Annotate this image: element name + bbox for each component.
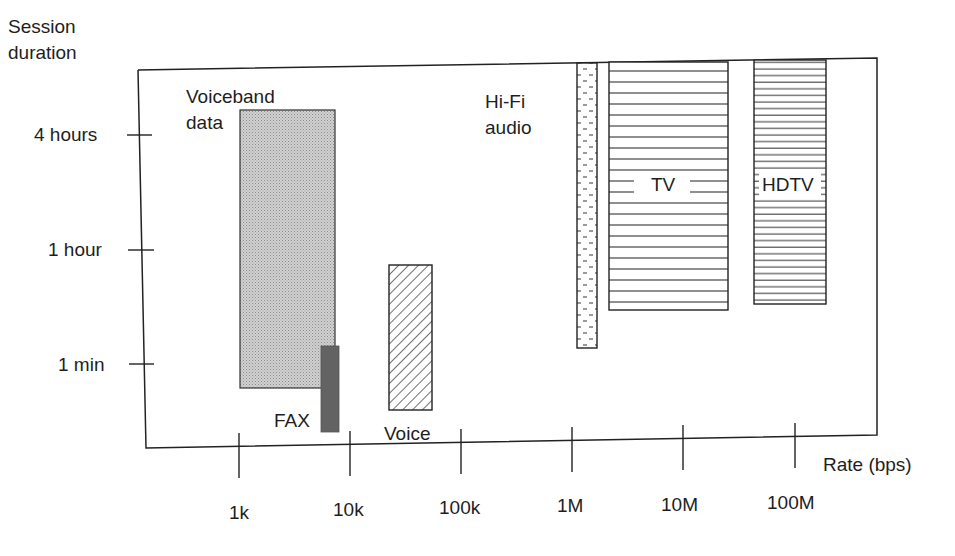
x-tick-label-100k: 100k: [439, 497, 480, 519]
region-fax: [321, 346, 339, 432]
chart-canvas: [0, 0, 955, 556]
y-tick-label-1min: 1 min: [58, 354, 104, 376]
x-tick-label-10M: 10M: [661, 494, 698, 516]
y-tick-label-4hours: 4 hours: [34, 124, 97, 146]
y-axis-title-line2: duration: [8, 42, 77, 64]
y-axis-title-line1: Session: [8, 16, 76, 38]
x-axis-title: Rate (bps): [823, 454, 912, 476]
label-voiceband-line2: data: [186, 112, 223, 134]
label-voiceband-line1: Voiceband: [186, 86, 275, 108]
region-voice: [389, 265, 432, 410]
label-fax: FAX: [274, 410, 310, 432]
label-voice: Voice: [384, 423, 430, 445]
label-hifi-line2: audio: [485, 117, 532, 139]
x-tick-label-1k: 1k: [229, 502, 249, 524]
label-hdtv: HDTV: [762, 174, 814, 196]
x-tick-label-10k: 10k: [333, 499, 364, 521]
x-tick-label-1M: 1M: [557, 495, 583, 517]
label-hifi-line1: Hi-Fi: [485, 91, 525, 113]
y-tick-label-1hour: 1 hour: [48, 239, 102, 261]
region-hifi-audio: [577, 63, 597, 348]
x-tick-label-100M: 100M: [767, 492, 815, 514]
label-tv: TV: [651, 174, 675, 196]
